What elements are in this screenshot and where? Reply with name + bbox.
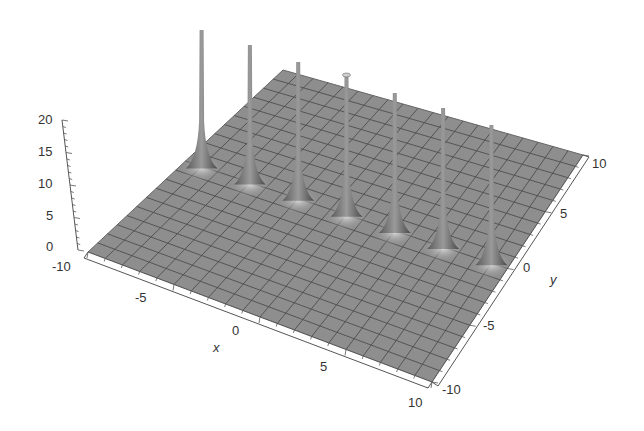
y-tick-neg5: -5	[483, 318, 495, 333]
z-tick-0: 0	[46, 239, 53, 254]
surface	[88, 30, 583, 382]
x-axis-label: x	[212, 340, 220, 355]
x-tick-0: 0	[232, 323, 239, 338]
x-tick-neg10: -10	[52, 259, 71, 274]
y-tick-5: 5	[560, 206, 567, 221]
z-axis: 20 15 10 5 0	[38, 112, 84, 254]
x-tick-5: 5	[320, 359, 327, 374]
y-axis-label: y	[549, 272, 558, 287]
x-tick-10: 10	[408, 395, 422, 410]
z-tick-5: 5	[46, 208, 53, 223]
y-tick-10: 10	[592, 156, 606, 171]
surface-plot: 20 15 10 5 0 -10 -5 0 5 10 x -10 -5 0 5 …	[0, 0, 644, 431]
z-tick-15: 15	[38, 144, 52, 159]
z-tick-20: 20	[38, 112, 52, 127]
y-tick-neg10: -10	[442, 382, 461, 397]
z-tick-10: 10	[38, 176, 52, 191]
y-tick-0: 0	[523, 260, 530, 275]
x-tick-neg5: -5	[135, 290, 147, 305]
